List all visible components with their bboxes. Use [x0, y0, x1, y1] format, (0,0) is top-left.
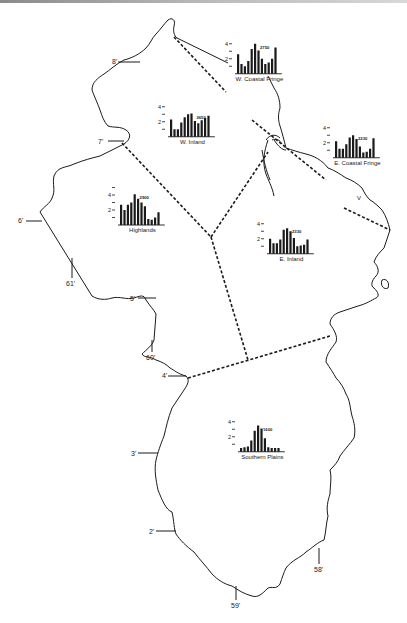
bar — [144, 206, 146, 225]
rainfall-annotation: 2230 — [358, 136, 368, 141]
bar — [170, 120, 172, 137]
bar — [272, 243, 274, 254]
svg-text:4: 4 — [323, 125, 326, 131]
bar — [254, 431, 256, 452]
bar — [177, 129, 179, 137]
lon-label-61: 61' — [66, 280, 75, 287]
rainfall-annotation: 1600 — [263, 427, 273, 432]
bar — [277, 448, 279, 452]
svg-text:2: 2 — [323, 140, 326, 146]
bar — [260, 429, 262, 452]
chart-title: E. Inland — [280, 256, 304, 262]
chart-title: Highlands — [129, 227, 156, 233]
river-estuary — [262, 135, 286, 196]
bar — [296, 246, 298, 254]
bar — [257, 51, 259, 74]
lat-label-5: 5' — [130, 295, 135, 302]
bar — [134, 194, 136, 225]
bar — [293, 238, 295, 254]
bar — [276, 243, 278, 254]
svg-text:2: 2 — [225, 56, 228, 62]
bar — [204, 118, 206, 137]
bar — [264, 64, 266, 74]
bar — [274, 48, 276, 74]
bar — [120, 205, 122, 225]
bar — [123, 210, 125, 225]
rainfall-annotation: 2650 — [196, 115, 206, 120]
bar — [251, 49, 253, 74]
bar — [355, 139, 357, 158]
bar — [274, 448, 276, 452]
chart-title: E. Coastal Fringe — [334, 160, 381, 166]
bar — [247, 447, 249, 452]
bar — [283, 230, 285, 254]
bar — [140, 203, 142, 226]
bar — [190, 114, 192, 137]
svg-text:2: 2 — [108, 207, 111, 213]
bar — [267, 447, 269, 452]
bar — [261, 59, 263, 74]
region-marker: V — [357, 195, 361, 201]
chart-w-coastal-fringe: 422750W. Coastal Fringe — [225, 40, 302, 86]
rainfall-annotation: 2750 — [260, 45, 270, 50]
svg-text:4: 4 — [108, 192, 111, 198]
rainfall-annotation: 2330 — [292, 229, 302, 234]
svg-text:2: 2 — [228, 434, 231, 440]
chart-highlands: 422900Highlands — [108, 186, 185, 237]
bar — [240, 448, 242, 452]
bar — [349, 138, 351, 158]
bar — [335, 141, 337, 158]
bar — [369, 149, 371, 158]
bar — [201, 120, 203, 137]
bar — [271, 59, 273, 74]
bar — [338, 149, 340, 158]
bar — [250, 441, 252, 452]
chart-southern-plains: 421600Southern Plains — [228, 418, 305, 464]
bar — [271, 448, 273, 452]
bar — [154, 218, 156, 226]
bar — [180, 123, 182, 137]
bar — [303, 245, 305, 254]
island — [381, 279, 388, 288]
bar — [237, 54, 239, 74]
map-outline — [0, 0, 407, 623]
chart-w-inland: 422650W. Inland — [158, 103, 235, 149]
bar — [269, 239, 271, 254]
lon-label-59: 59' — [231, 602, 240, 609]
svg-text:4: 4 — [158, 104, 161, 110]
lat-label-6: 6' — [18, 217, 23, 224]
bar — [247, 61, 249, 74]
bar — [366, 152, 368, 158]
bar — [268, 63, 270, 74]
chart-title: Southern Plains — [241, 454, 283, 460]
bar — [194, 121, 196, 137]
svg-text:4: 4 — [228, 419, 231, 425]
bar — [243, 447, 245, 452]
bar — [151, 220, 153, 225]
bar — [300, 246, 302, 254]
bar — [286, 228, 288, 254]
bar — [127, 205, 129, 225]
bar — [254, 44, 256, 74]
bar — [240, 64, 242, 74]
svg-text:4: 4 — [225, 41, 228, 47]
bar — [264, 438, 266, 452]
lat-label-2: 2' — [149, 528, 154, 535]
bar — [372, 138, 374, 158]
rainfall-annotation: 2900 — [140, 195, 150, 200]
bar — [352, 135, 354, 158]
bar — [130, 203, 132, 226]
bar — [173, 129, 175, 137]
chart-title: W. Coastal Fringe — [236, 76, 284, 82]
bar — [187, 114, 189, 137]
lat-label-3: 3' — [131, 450, 136, 457]
bar — [157, 212, 159, 225]
bar — [184, 117, 186, 137]
bar — [342, 149, 344, 158]
bar — [289, 231, 291, 254]
bar — [137, 199, 139, 225]
chart-e-coastal-fringe: 422230E. Coastal Fringe — [323, 124, 400, 170]
bar — [244, 66, 246, 74]
lat-label-7: 7' — [98, 138, 103, 145]
lon-label-60: 60' — [146, 354, 155, 361]
